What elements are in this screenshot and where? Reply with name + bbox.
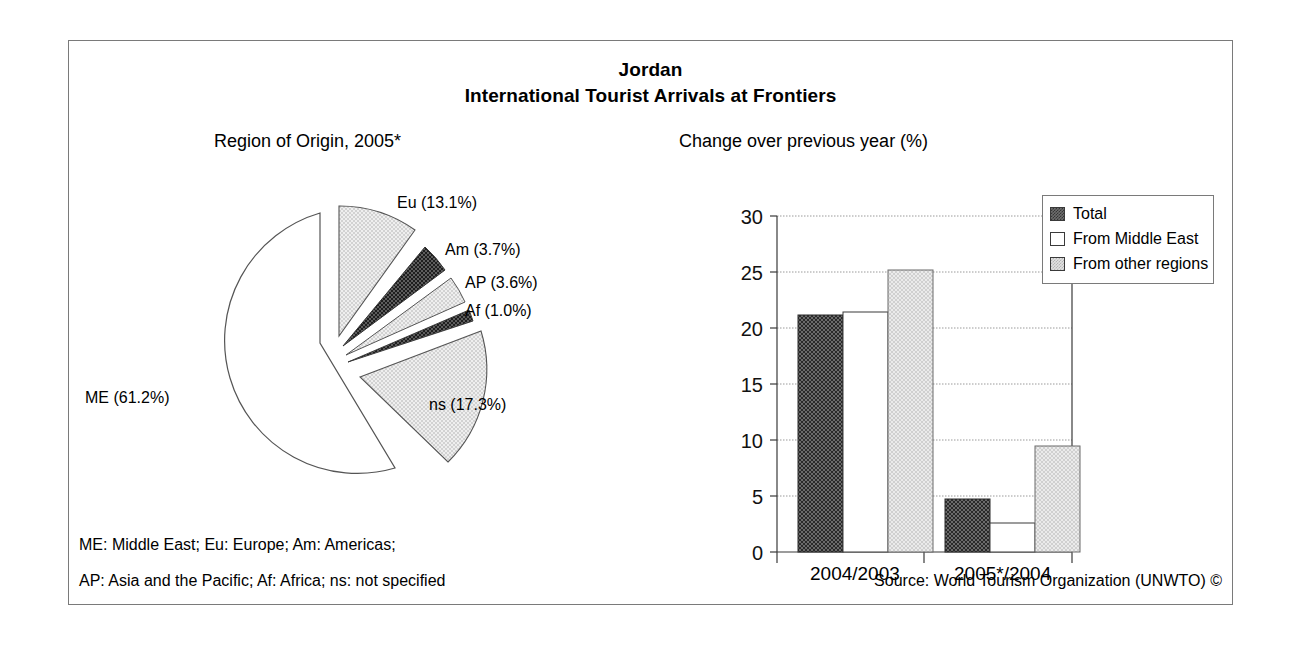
bar-chart-title: Change over previous year (%) [679,131,928,152]
legend-swatch-total-icon [1050,207,1065,221]
pie-label-me: ME (61.2%) [85,389,169,407]
legend-item-from-other-regions[interactable]: From other regions [1050,253,1205,275]
legend-label-total: Total [1073,205,1107,223]
bar-other-regions-2005 [1035,446,1080,552]
source-note: Source: World Tourism Organization (UNWT… [874,572,1222,590]
svg-text:25: 25 [741,262,763,284]
legend-swatch-middle-east-icon [1050,232,1065,246]
bar-total-2004 [798,315,843,552]
svg-text:15: 15 [741,374,763,396]
bar-total-2005 [945,499,990,552]
legend-label-from-middle-east: From Middle East [1073,230,1198,248]
bar-middle-east-2005 [990,523,1035,552]
bar-chart-y-ticks [770,216,777,552]
figure-title: Jordan [69,57,1232,83]
legend-label-from-other-regions: From other regions [1073,255,1208,273]
pie-label-am: Am (3.7%) [445,241,521,259]
pie-chart: Eu (13.1%) Am (3.7%) AP (3.6%) Af (1.0%)… [77,156,637,516]
figure-subtitle: International Tourist Arrivals at Fronti… [69,83,1232,109]
figure-title-block: Jordan International Tourist Arrivals at… [69,57,1232,109]
svg-text:30: 30 [741,206,763,228]
pie-chart-svg [77,156,637,516]
bar-chart-y-tick-labels: 30 25 20 15 10 5 0 [741,206,763,564]
svg-text:10: 10 [741,430,763,452]
chart-figure-frame: Jordan International Tourist Arrivals at… [68,40,1233,605]
abbreviation-note-line-2: AP: Asia and the Pacific; Af: Africa; ns… [79,572,445,590]
pie-label-ap: AP (3.6%) [465,274,538,292]
bar-chart-svg: 30 25 20 15 10 5 0 200 [639,151,1109,571]
legend-swatch-other-regions-icon [1050,257,1065,271]
pie-chart-title: Region of Origin, 2005* [214,131,401,152]
svg-text:5: 5 [752,486,763,508]
pie-label-eu: Eu (13.1%) [397,194,477,212]
legend-item-total[interactable]: Total [1050,203,1205,225]
bar-other-regions-2004 [888,270,933,552]
abbreviation-note-line-1: ME: Middle East; Eu: Europe; Am: America… [79,536,396,554]
svg-text:20: 20 [741,318,763,340]
pie-label-ns: ns (17.3%) [429,396,506,414]
bar-chart-x-ticks [777,552,1072,563]
bar-middle-east-2004 [843,312,888,552]
svg-text:0: 0 [752,542,763,564]
pie-label-af: Af (1.0%) [465,302,532,320]
bar-chart: 30 25 20 15 10 5 0 200 [639,151,1109,571]
bar-chart-legend: Total From Middle East From other region… [1042,195,1214,284]
legend-item-from-middle-east[interactable]: From Middle East [1050,228,1205,250]
